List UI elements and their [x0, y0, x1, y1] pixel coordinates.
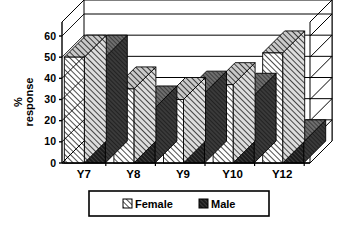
legend-label-male: Male [211, 198, 235, 210]
bar-chart-3d: 0102030405060 Y7Y8Y9Y10Y12 %response Fem… [0, 0, 355, 230]
y-tick-label: 40 [44, 72, 56, 84]
x-category-label-Y7: Y7 [77, 168, 91, 180]
y-tick-label: 30 [44, 93, 56, 105]
bar-female-Y7 [64, 35, 106, 163]
y-tick-label: 60 [44, 30, 56, 42]
x-category-label-Y9: Y9 [176, 168, 190, 180]
y-axis-title: %response [12, 78, 35, 127]
y-tick-label: 0 [50, 157, 56, 169]
y-tick-label: 20 [44, 114, 56, 126]
y-tick-label: 10 [44, 135, 56, 147]
legend-swatch-female [123, 199, 132, 208]
x-axis-category-labels: Y7Y8Y9Y10Y12 [77, 163, 304, 180]
legend-label-female: Female [135, 198, 173, 210]
y-tick-label: 50 [44, 51, 56, 63]
chart-legend: FemaleMale [89, 191, 269, 216]
x-category-label-Y10: Y10 [222, 168, 242, 180]
y-axis-title-line: response [23, 78, 35, 127]
chart-canvas: 0102030405060 Y7Y8Y9Y10Y12 %response Fem… [0, 0, 355, 230]
x-category-label-Y12: Y12 [272, 168, 292, 180]
x-category-label-Y8: Y8 [126, 168, 141, 180]
legend-swatch-male [199, 199, 208, 208]
